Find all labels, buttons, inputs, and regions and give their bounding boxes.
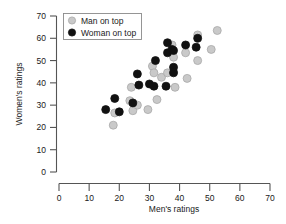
x-tick-label: 10 — [84, 193, 94, 203]
y-axis-title: Women's ratings — [14, 63, 24, 126]
data-point — [213, 26, 221, 34]
scatter-plot-figure: 010203040506070 Women's ratings 01020304… — [0, 0, 286, 224]
x-tick-label: 60 — [235, 193, 245, 203]
data-point — [111, 94, 119, 102]
y-tick-label: 10 — [37, 145, 47, 155]
x-tick-label: 50 — [205, 193, 215, 203]
legend-marker-man-on-top — [68, 17, 75, 24]
y-tick-label: 40 — [37, 78, 47, 88]
data-point — [170, 47, 178, 55]
data-point — [102, 106, 110, 114]
data-point — [109, 121, 117, 129]
y-tick-label: 50 — [37, 56, 47, 66]
data-point — [127, 83, 135, 91]
legend: Man on top Woman on top — [64, 14, 142, 40]
y-tick-label: 70 — [37, 11, 47, 21]
legend-label-man-on-top: Man on top — [81, 16, 124, 26]
data-point — [133, 70, 141, 78]
data-point — [153, 96, 161, 104]
x-tick-label: 0 — [57, 193, 62, 203]
x-tick-label: 40 — [175, 193, 185, 203]
x-tick-label: 70 — [265, 193, 275, 203]
chart-svg: 010203040506070 Women's ratings 01020304… — [0, 0, 286, 224]
data-point — [171, 83, 179, 91]
y-tick-label: 20 — [37, 122, 47, 132]
legend-label-woman-on-top: Woman on top — [81, 28, 136, 38]
data-point — [182, 49, 190, 57]
data-point — [194, 34, 202, 42]
data-point — [207, 45, 215, 53]
y-tick-label: 60 — [37, 33, 47, 43]
data-point — [150, 82, 158, 90]
data-point — [135, 81, 143, 89]
data-point — [194, 57, 202, 65]
x-tick-label: 20 — [115, 193, 125, 203]
data-point — [150, 69, 158, 77]
data-point — [151, 57, 159, 65]
data-point — [144, 106, 152, 114]
data-point — [162, 82, 170, 90]
data-point — [182, 41, 190, 49]
data-point — [115, 108, 123, 116]
data-point — [170, 69, 178, 77]
y-tick-label: 30 — [37, 100, 47, 110]
data-point — [183, 74, 191, 82]
x-axis-title: Men's ratings — [149, 204, 199, 214]
data-point — [129, 99, 137, 107]
x-tick-label: 30 — [145, 193, 155, 203]
data-point — [192, 43, 200, 51]
y-tick-label: 0 — [41, 167, 46, 177]
legend-marker-woman-on-top — [68, 29, 75, 36]
